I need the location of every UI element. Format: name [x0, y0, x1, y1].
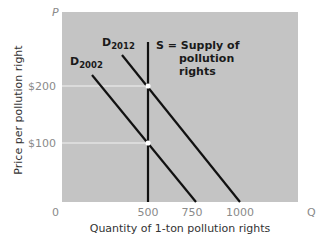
supply-label-line2: pollution: [179, 52, 234, 65]
x-tick-1000: 1000: [226, 206, 254, 219]
y-tick-100: $100: [28, 137, 56, 150]
x-tick-750: 750: [182, 206, 203, 219]
supply-label-line1: S = Supply of: [156, 39, 240, 52]
x-axis-title: Quantity of 1-ton pollution rights: [90, 222, 271, 235]
chart: D2012 D2002 S = Supply of pollution righ…: [0, 0, 318, 243]
equilibrium-dot-200: [145, 83, 150, 88]
equilibrium-dot-100: [145, 140, 150, 145]
y-tick-200: $200: [28, 80, 56, 93]
supply-label-line3: rights: [179, 65, 216, 78]
x-tick-500: 500: [138, 206, 159, 219]
y-axis-title: Price per pollution right: [12, 45, 25, 175]
origin-label: 0: [52, 206, 59, 219]
x-axis-symbol: Q: [307, 206, 316, 219]
y-axis-symbol: P: [52, 6, 59, 19]
